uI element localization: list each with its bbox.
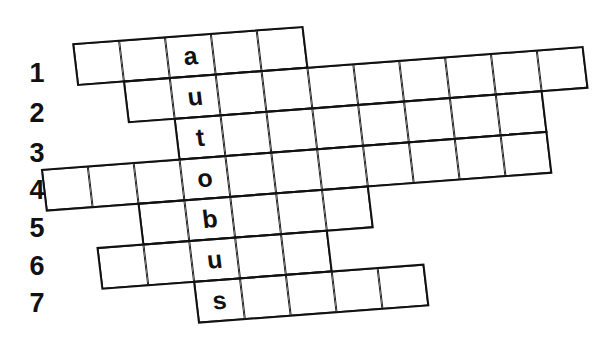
crossword-cell[interactable] <box>317 146 368 190</box>
crossword-cell[interactable] <box>88 163 139 207</box>
crossword-cell[interactable] <box>276 190 327 234</box>
keyword-cell[interactable]: u <box>170 75 221 119</box>
crossword-cell[interactable] <box>240 275 291 319</box>
crossword-cell[interactable] <box>537 47 588 91</box>
crossword-cell[interactable] <box>409 139 460 183</box>
crossword-cell[interactable] <box>119 37 170 81</box>
crossword-cell[interactable] <box>491 50 542 94</box>
keyword-cell[interactable]: u <box>189 238 240 282</box>
crossword-cell[interactable] <box>358 102 409 146</box>
crossword-cell[interactable] <box>216 71 267 115</box>
crossword-cell[interactable] <box>450 95 501 139</box>
crossword-cell[interactable] <box>143 241 194 285</box>
crossword-cell[interactable] <box>257 27 308 71</box>
crossword-cell[interactable] <box>262 68 313 112</box>
crossword-cell[interactable] <box>332 268 383 312</box>
crossword-cell[interactable] <box>501 132 552 176</box>
crossword-cell[interactable] <box>496 91 547 135</box>
keyword-cell[interactable]: o <box>180 156 231 200</box>
crossword-cell[interactable] <box>73 41 124 85</box>
crossword-cell[interactable] <box>98 245 149 289</box>
crossword-cell[interactable] <box>271 149 322 193</box>
crossword-cell[interactable] <box>307 64 358 108</box>
crossword-cell[interactable] <box>211 30 262 74</box>
crossword-cell[interactable] <box>221 112 272 156</box>
crossword-cell[interactable] <box>445 54 496 98</box>
crossword-cell[interactable] <box>235 234 286 278</box>
crossword-cell[interactable] <box>399 57 450 101</box>
crossword-cell[interactable] <box>455 135 506 179</box>
crossword-cell[interactable] <box>322 187 373 231</box>
crossword-cell[interactable] <box>124 78 175 122</box>
crossword-cell[interactable] <box>286 271 337 315</box>
crossword-cell[interactable] <box>353 61 404 105</box>
crossword-cell[interactable] <box>404 98 455 142</box>
crossword-cell[interactable] <box>363 142 414 186</box>
crossword-cell[interactable] <box>230 193 281 237</box>
crossword-cell[interactable] <box>266 108 317 152</box>
crossword-cell[interactable] <box>281 231 332 275</box>
keyword-cell[interactable]: b <box>184 197 235 241</box>
keyword-cell[interactable]: t <box>175 115 226 159</box>
keyword-cell[interactable]: a <box>165 34 216 78</box>
crossword-cell[interactable] <box>42 166 93 210</box>
crossword-grid: autobus <box>0 0 600 350</box>
crossword-cell[interactable] <box>139 200 190 244</box>
crossword-cell[interactable] <box>225 153 276 197</box>
crossword-cell[interactable] <box>378 265 429 309</box>
crossword-cell[interactable] <box>312 105 363 149</box>
crossword-cell[interactable] <box>134 160 185 204</box>
keyword-cell[interactable]: s <box>194 278 245 322</box>
